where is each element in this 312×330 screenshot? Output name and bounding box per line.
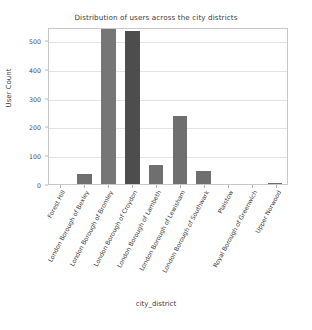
x-tick-mark bbox=[108, 185, 109, 188]
bar[interactable] bbox=[173, 116, 188, 184]
x-axis-label: city_district bbox=[0, 300, 312, 308]
x-tick-label: Royal Borough of Greenwich bbox=[211, 189, 258, 269]
bar[interactable] bbox=[149, 165, 164, 184]
chart-title: Distribution of users across the city di… bbox=[0, 13, 312, 22]
y-tick-label: 300 bbox=[29, 95, 41, 102]
bar-slot bbox=[168, 29, 192, 184]
y-tick-label: 0 bbox=[37, 182, 41, 189]
x-tick-label: London Borough of Bromley bbox=[68, 189, 114, 267]
x-tick-mark bbox=[132, 185, 133, 188]
bar-slot bbox=[120, 29, 144, 184]
bar-slot bbox=[239, 29, 263, 184]
x-tick-label: Plaistow bbox=[216, 189, 234, 214]
y-tick-label: 400 bbox=[29, 66, 41, 73]
bar[interactable] bbox=[125, 31, 140, 184]
bar[interactable] bbox=[101, 28, 116, 184]
bar-slot bbox=[144, 29, 168, 184]
bar-series bbox=[49, 29, 287, 184]
y-tick-label: 100 bbox=[29, 153, 41, 160]
bar-slot bbox=[216, 29, 240, 184]
plot-area bbox=[48, 28, 288, 185]
x-tick-mark bbox=[180, 185, 181, 188]
x-tick-mark bbox=[204, 185, 205, 188]
x-tick-label: Upper Norwood bbox=[254, 189, 282, 234]
x-tick-mark bbox=[228, 185, 229, 188]
y-axis-ticks: 0100200300400500 bbox=[0, 28, 48, 185]
x-tick-label: London Borough of Croydon bbox=[92, 189, 138, 267]
bar-chart-figure: Distribution of users across the city di… bbox=[0, 0, 312, 330]
x-tick-label: London Borough of Lambeth bbox=[115, 189, 162, 269]
x-axis-tick-labels: Forest HillLondon Borough of BexleyLondo… bbox=[48, 189, 288, 294]
bar-slot bbox=[192, 29, 216, 184]
bar[interactable] bbox=[77, 174, 92, 184]
x-tick-mark bbox=[252, 185, 253, 188]
y-tick-label: 500 bbox=[29, 37, 41, 44]
x-tick-label: London Borough of Lewisham bbox=[138, 189, 186, 272]
x-tick-mark bbox=[156, 185, 157, 188]
x-tick-label: London Borough of Southwark bbox=[161, 189, 210, 274]
bar-slot bbox=[263, 29, 287, 184]
x-tick-mark bbox=[84, 185, 85, 188]
bar-slot bbox=[97, 29, 121, 184]
x-tick-mark bbox=[60, 185, 61, 188]
bar[interactable] bbox=[268, 183, 283, 184]
y-tick-label: 200 bbox=[29, 124, 41, 131]
x-axis-ticks bbox=[48, 185, 288, 186]
bar-slot bbox=[73, 29, 97, 184]
x-tick-label: Forest Hill bbox=[46, 189, 66, 219]
bar[interactable] bbox=[196, 171, 211, 184]
bar-slot bbox=[49, 29, 73, 184]
